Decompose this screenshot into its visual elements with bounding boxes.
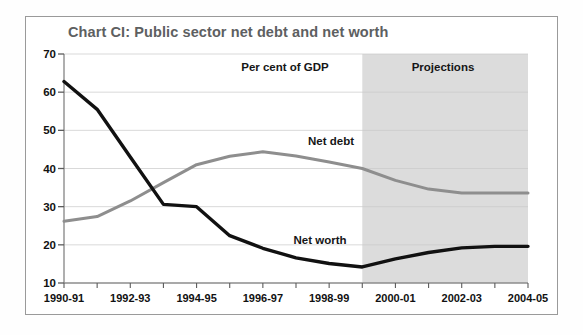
y-axis-tick-label: 60 [28,86,56,98]
x-axis-tick-label: 2004-05 [508,292,548,304]
y-axis-tick-label: 10 [28,277,56,289]
units-annotation: Per cent of GDP [241,61,329,73]
y-axis-tick-label: 70 [28,48,56,60]
y-axis-tick-label: 20 [28,239,56,251]
y-axis-tick-label: 40 [28,163,56,175]
x-axis-tick-label: 1992-93 [110,292,150,304]
x-axis-tick-label: 2002-03 [442,292,482,304]
chart-plot-area [0,0,583,335]
chart-figure: Chart CI: Public sector net debt and net… [0,0,583,335]
x-axis-tick-label: 2000-01 [375,292,415,304]
net-worth-series-label: Net worth [293,234,346,246]
x-axis-tick-label: 1998-99 [309,292,349,304]
x-axis-tick-label: 1994-95 [176,292,216,304]
projections-annotation: Projections [412,61,475,73]
x-axis-tick-label: 1990-91 [44,292,84,304]
net-debt-series-label: Net debt [308,135,354,147]
x-axis-tick-label: 1996-97 [243,292,283,304]
y-axis-tick-label: 30 [28,201,56,213]
y-axis-tick-label: 50 [28,124,56,136]
